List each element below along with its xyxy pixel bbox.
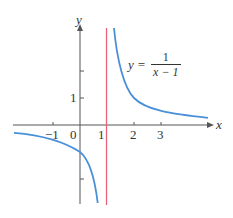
y-tick-label: 1 <box>70 91 77 104</box>
equation-lhs: y = <box>128 57 146 73</box>
x-tick-label: 3 <box>157 128 164 141</box>
x-axis-label: x <box>216 118 222 131</box>
y-axis-label: y <box>76 13 82 26</box>
x-tick-label: 0 <box>70 128 77 141</box>
equation-label: y = 1 x − 1 <box>128 51 181 79</box>
equation-denominator: x − 1 <box>153 65 178 79</box>
x-tick-label: 2 <box>130 128 137 141</box>
x-tick-label: −1 <box>45 128 59 141</box>
function-graph <box>0 0 233 218</box>
curve-left-branch <box>14 133 98 203</box>
x-tick-label: 1 <box>98 128 105 141</box>
x-axis-arrow-icon <box>207 122 214 128</box>
equation-numerator: 1 <box>163 51 169 64</box>
